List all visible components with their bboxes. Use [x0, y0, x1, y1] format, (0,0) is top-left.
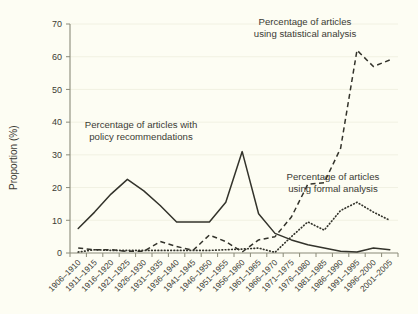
y-tick-label: 10 [52, 216, 62, 226]
y-tick-label: 50 [52, 85, 62, 95]
policy-recommendations-annotation: Percentage of articles with policy recom… [85, 119, 198, 142]
y-tick-label: 30 [52, 150, 62, 160]
line-chart-canvas: 010203040506070 Proportion (%) 1906–1910… [0, 0, 418, 314]
y-axis-title: Proportion (%) [8, 126, 19, 190]
y-tick-label: 0 [57, 248, 62, 258]
policy-annotation-line2: policy recommendations [89, 131, 193, 142]
chart-figure: 010203040506070 Proportion (%) 1906–1910… [0, 0, 418, 314]
formal-annotation-line1: Percentage of articles [287, 171, 380, 182]
statistical-analysis-annotation: Percentage of articles using statistical… [254, 16, 357, 39]
formal-annotation-line2: using formal analysis [288, 183, 378, 194]
y-tick-label: 40 [52, 117, 62, 127]
x-axis-ticks-group [70, 253, 398, 257]
statistical-annotation-line2: using statistical analysis [254, 28, 357, 39]
formal-analysis-annotation: Percentage of articles using formal anal… [287, 171, 380, 194]
y-tick-label: 60 [52, 52, 62, 62]
y-tick-label: 20 [52, 183, 62, 193]
y-tick-label: 70 [52, 19, 62, 29]
policy-annotation-line1: Percentage of articles with [85, 119, 198, 130]
statistical-annotation-line1: Percentage of articles [259, 16, 352, 27]
